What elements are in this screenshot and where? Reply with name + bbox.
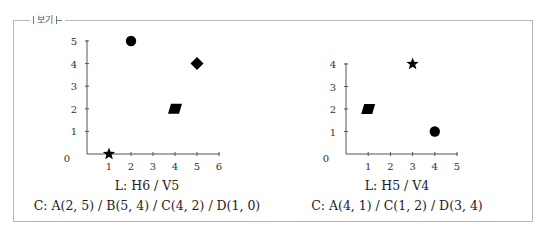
right-chart-caption-line1: L: H5 / V4 bbox=[297, 178, 497, 193]
right-chart-caption-line2: C: A(4, 1) / C(1, 2) / D(3, 4) bbox=[287, 198, 507, 213]
origin-label: 0 bbox=[323, 153, 329, 164]
star-marker-D bbox=[406, 58, 418, 70]
x-tick-label: 1 bbox=[365, 161, 371, 172]
left-chart-caption-line2: C: A(2, 5) / B(5, 4) / C(4, 2) / D(1, 0) bbox=[17, 198, 277, 213]
left-chart-caption-line1: L: H6 / V5 bbox=[47, 178, 247, 193]
circle-marker-A bbox=[430, 126, 440, 136]
parallelogram-marker-C bbox=[361, 104, 375, 114]
x-tick-label: 2 bbox=[387, 161, 393, 172]
x-tick-label: 4 bbox=[432, 161, 438, 172]
y-tick-label: 1 bbox=[330, 127, 336, 138]
y-tick-label: 4 bbox=[330, 59, 336, 70]
y-tick-label: 2 bbox=[330, 104, 336, 115]
y-tick-label: 3 bbox=[330, 82, 336, 93]
x-tick-label: 3 bbox=[409, 161, 415, 172]
x-tick-label: 5 bbox=[454, 161, 460, 172]
